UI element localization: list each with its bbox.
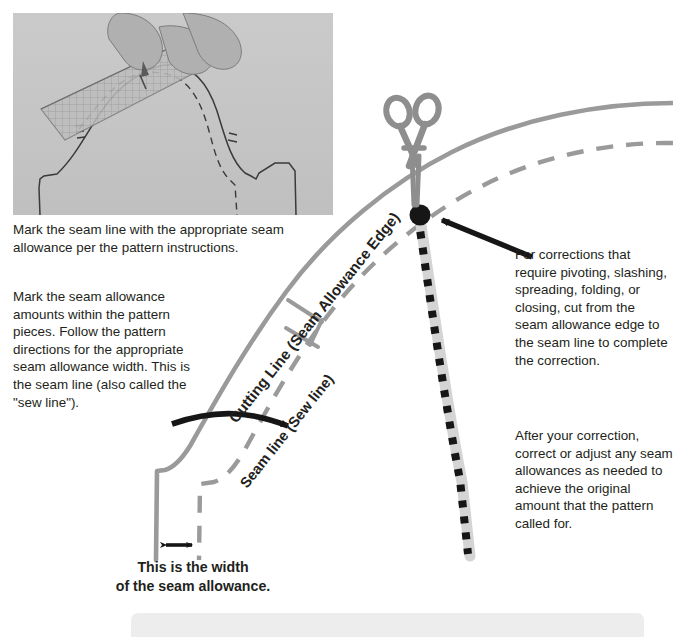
caption-top: Mark the seam line with the appropriate … <box>13 221 343 256</box>
pivot-point-dot <box>410 205 431 226</box>
dotted-cut-line <box>418 216 470 556</box>
bottom-caption-line-1: This is the width <box>18 558 368 577</box>
right-body-text-after-correction: After your correction, correct or adjust… <box>515 427 673 533</box>
right-body-text-corrections: For corrections that require pivoting, s… <box>515 246 670 369</box>
left-body-text: Mark the seam allowance amounts within t… <box>13 288 208 411</box>
photo-marking-seam-line-with-ruler <box>13 13 333 215</box>
scissors-icon <box>383 93 442 205</box>
bottom-bar <box>131 613 644 637</box>
bottom-caption: This is the width of the seam allowance. <box>18 558 368 596</box>
bottom-caption-line-2: of the seam allowance. <box>18 577 368 596</box>
